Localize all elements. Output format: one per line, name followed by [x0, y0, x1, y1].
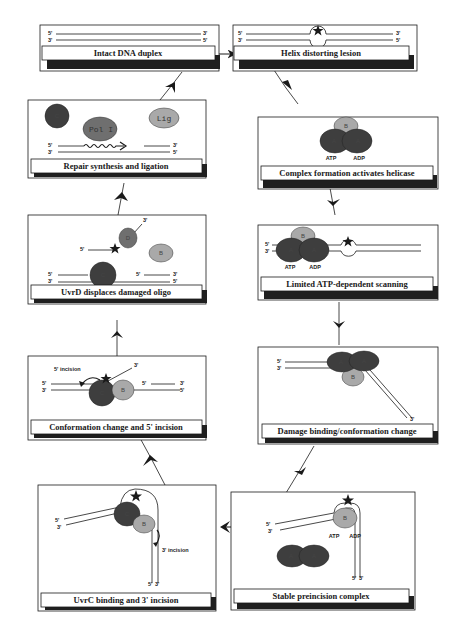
- label-5prime: 5': [265, 241, 270, 247]
- protein-label: Lig: [157, 114, 172, 123]
- label-3prime: 3': [173, 142, 178, 148]
- protein-label: A: [362, 358, 366, 364]
- label-5prime: 5': [203, 37, 208, 43]
- label-3prime: 3': [134, 362, 139, 368]
- protein-label: A: [312, 553, 316, 559]
- label-5prime: 5': [266, 521, 271, 527]
- protein-label: Pol I: [89, 125, 113, 134]
- nucleotide-excision-repair-diagram: 5' 3' 3' 5' Intact DNA duplex 5' 3' 3' 5…: [0, 0, 458, 632]
- label-3prime: 3': [48, 37, 53, 43]
- adp-label: ADP: [309, 264, 321, 270]
- arrow-p9-to-p10: [118, 183, 124, 215]
- panel-complex-formation: B A A ATP ADP Complex formation activate…: [258, 117, 438, 189]
- label-3prime: 3': [359, 575, 364, 581]
- label-3prime: 3': [155, 581, 160, 587]
- label-5prime: 5': [136, 271, 141, 277]
- panel-caption: Intact DNA duplex: [94, 48, 163, 58]
- label-3prime: 3': [143, 217, 148, 223]
- label-3prime: 3': [238, 37, 243, 43]
- protein-label: A: [339, 359, 343, 365]
- panel-caption: Conformation change and 5' incision: [49, 422, 183, 432]
- protein-label: C: [101, 272, 106, 278]
- panel-helix-distorting-lesion: 5' 3' 3' 5' Helix distorting lesion: [233, 25, 417, 71]
- label-3prime: 3': [173, 271, 178, 277]
- panel-caption: UvrD displaces damaged oligo: [61, 287, 171, 297]
- label-5prime: 5': [48, 142, 53, 148]
- panel-caption: Helix distorting lesion: [281, 48, 361, 58]
- label-5prime: 5': [55, 517, 60, 523]
- protein-label: C: [55, 113, 60, 119]
- label-3prime: 3': [268, 528, 273, 534]
- panel-repair-synthesis-ligation: C Pol I Lig 5' 3' 3' 5' Repair synthesis…: [28, 100, 207, 178]
- protein-label: C: [125, 511, 130, 517]
- label-3prime: 3': [48, 149, 53, 155]
- label-5prime: 5': [148, 581, 153, 587]
- label-5prime: 5': [180, 387, 185, 393]
- protein-label: B: [142, 521, 146, 527]
- protein-label: A: [356, 138, 360, 144]
- protein-label: A: [289, 247, 293, 253]
- protein-label: A: [332, 138, 336, 144]
- incision-label: 5' incision: [54, 366, 81, 372]
- atp-label: ATP: [326, 155, 337, 161]
- label-5prime: 5': [173, 278, 178, 284]
- label-5prime: 5': [48, 30, 53, 36]
- protein-label: A: [312, 247, 316, 253]
- label-5prime: 5': [80, 246, 85, 252]
- atp-label: ATP: [285, 264, 296, 270]
- label-5prime: 5': [173, 149, 178, 155]
- label-5prime: 5': [48, 271, 53, 277]
- label-3prime: 3': [42, 387, 47, 393]
- panel-caption: UvrC binding and 3' incision: [74, 595, 179, 605]
- panel-caption: Damage binding/conformation change: [278, 426, 417, 436]
- protein-label: D: [126, 235, 131, 241]
- adp-label: ADP: [349, 533, 361, 539]
- panel-uvrd-displaces-oligo: 3' D 5' B 5' 3' C 5' 3' 5' UvrD displace…: [28, 215, 207, 304]
- protein-label: B: [121, 387, 125, 393]
- arrow-p7-to-p8: [140, 438, 165, 485]
- label-3prime: 3': [203, 30, 208, 36]
- label-5prime: 5': [42, 380, 47, 386]
- protein-label: C: [100, 390, 105, 396]
- label-3prime: 3': [396, 30, 401, 36]
- protein-label: B: [301, 233, 305, 239]
- label-5prime: 5': [277, 358, 282, 364]
- panel-uvrc-binding-3prime-incision: 5' 3' C B 3' incision 5' 3' UvrC binding…: [38, 485, 216, 611]
- panel-intact-dna-duplex: 5' 3' 3' 5' Intact DNA duplex: [40, 25, 220, 71]
- incision-label: 3' incision: [162, 547, 189, 553]
- panel-caption: Repair synthesis and ligation: [64, 161, 169, 171]
- protein-label: B: [159, 250, 163, 256]
- panel-caption: Limited ATP-dependent scanning: [286, 279, 408, 289]
- protein-label: B: [343, 515, 347, 521]
- label-3prime: 3': [48, 278, 53, 284]
- protein-label: B: [344, 123, 348, 129]
- panel-caption: Complex formation activates helicase: [279, 168, 414, 178]
- label-3prime: 3': [277, 365, 282, 371]
- panel-caption: Stable preincision complex: [272, 591, 370, 601]
- label-3prime: 3': [410, 416, 415, 422]
- label-5prime: 5': [352, 575, 357, 581]
- adp-label: ADP: [353, 155, 365, 161]
- panel-atp-dependent-scanning: 5' 3' B A A ATP ADP Limited ATP-dependen…: [258, 225, 438, 300]
- panel-damage-binding: 5' 3' B A A 3' Damage binding/conformati…: [258, 347, 438, 444]
- panel-conformation-change-5prime-incision: 5' incision 3' 5' 3' 5' 3' 5' C B Confor…: [28, 356, 207, 440]
- label-5prime: 5': [396, 37, 401, 43]
- label-3prime: 3': [265, 248, 270, 254]
- protein-label: B: [351, 374, 355, 380]
- panel-stable-preincision-complex: 5' 3' B ATP ADP A A 5' 3' Stable preinci…: [231, 492, 415, 610]
- protein-label: A: [289, 553, 293, 559]
- label-3prime: 3': [180, 380, 185, 386]
- arrow-p2-to-p3: [274, 70, 298, 104]
- label-5prime: 5': [142, 380, 147, 386]
- arrow-p5-to-p6: [286, 446, 314, 493]
- atp-label: ATP: [329, 533, 340, 539]
- label-3prime: 3': [57, 524, 62, 530]
- label-5prime: 5': [238, 30, 243, 36]
